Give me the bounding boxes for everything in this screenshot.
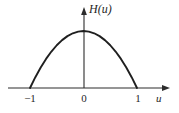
horizontal-axis	[8, 85, 170, 91]
vertical-axis	[81, 7, 87, 88]
vertical-axis-label: H(u)	[89, 3, 112, 15]
x-tick-label-zero: 0	[75, 93, 93, 104]
figure-canvas: H(u) u −1 0 1	[0, 0, 179, 113]
x-tick-label-one: 1	[129, 93, 147, 104]
x-tick-label-minus-one: −1	[21, 93, 39, 104]
horizontal-axis-arrowhead-icon	[162, 85, 170, 91]
vertical-axis-arrowhead-icon	[81, 7, 87, 15]
horizontal-axis-label: u	[156, 93, 162, 104]
